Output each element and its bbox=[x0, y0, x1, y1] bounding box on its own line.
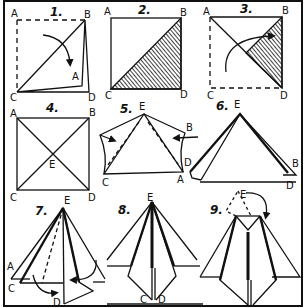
step-4: 4. A B C D E bbox=[10, 101, 96, 203]
label-a-folded: A bbox=[72, 71, 79, 82]
label-a: A bbox=[104, 6, 111, 17]
label-b: B bbox=[180, 7, 187, 18]
label-d: D bbox=[158, 294, 166, 305]
step-number: 9. bbox=[210, 203, 223, 217]
label-e: E bbox=[240, 189, 246, 200]
label-a: A bbox=[177, 174, 184, 185]
step-9: 9. E bbox=[200, 189, 300, 305]
step-number: 6. bbox=[216, 99, 229, 113]
label-c: C bbox=[10, 192, 17, 203]
label-d: D bbox=[88, 92, 96, 103]
label-b: B bbox=[282, 5, 289, 16]
label-d: D bbox=[184, 157, 192, 168]
label-c: C bbox=[207, 90, 214, 101]
label-e: E bbox=[49, 159, 55, 170]
label-e: E bbox=[147, 192, 153, 203]
label-e: E bbox=[139, 101, 145, 112]
label-e: E bbox=[234, 99, 240, 110]
label-b: B bbox=[84, 9, 91, 20]
step-3: 3. A B C D bbox=[203, 2, 289, 101]
label-c: C bbox=[10, 92, 17, 103]
step-number: 8. bbox=[118, 203, 131, 217]
origami-diagram: 1. A B C D A 2. A B C D 3. A B C D 4. A … bbox=[0, 0, 305, 308]
label-b: B bbox=[292, 158, 299, 169]
label-c: C bbox=[8, 283, 15, 294]
label-d: D bbox=[286, 180, 294, 191]
label-a: A bbox=[7, 261, 14, 272]
step-number: 5. bbox=[120, 102, 133, 116]
step-number: 1. bbox=[50, 5, 63, 19]
label-b: B bbox=[89, 107, 96, 118]
label-d: D bbox=[53, 297, 61, 308]
step-number: 2. bbox=[138, 3, 151, 17]
label-d: D bbox=[88, 192, 96, 203]
step-6: 6. E B D bbox=[190, 99, 299, 191]
label-a: A bbox=[10, 108, 17, 119]
step-8: 8. E C D bbox=[107, 192, 203, 305]
step-1: 1. A B C D A bbox=[10, 5, 96, 103]
label-c: C bbox=[102, 177, 109, 188]
label-c: C bbox=[140, 294, 147, 305]
label-d: D bbox=[180, 89, 188, 100]
label-a: A bbox=[11, 8, 18, 19]
step-5: 5. E B D A C bbox=[100, 101, 198, 188]
step-2: 2. A B C D bbox=[104, 3, 188, 101]
step-number: 7. bbox=[35, 204, 48, 218]
step-number: 3. bbox=[240, 2, 253, 16]
label-c: C bbox=[105, 90, 112, 101]
step-7: 7. E A C D bbox=[7, 195, 105, 308]
label-b: B bbox=[186, 122, 193, 133]
label-e: E bbox=[64, 195, 70, 206]
label-d: D bbox=[280, 90, 288, 101]
step-number: 4. bbox=[45, 101, 59, 115]
label-a: A bbox=[203, 6, 210, 17]
